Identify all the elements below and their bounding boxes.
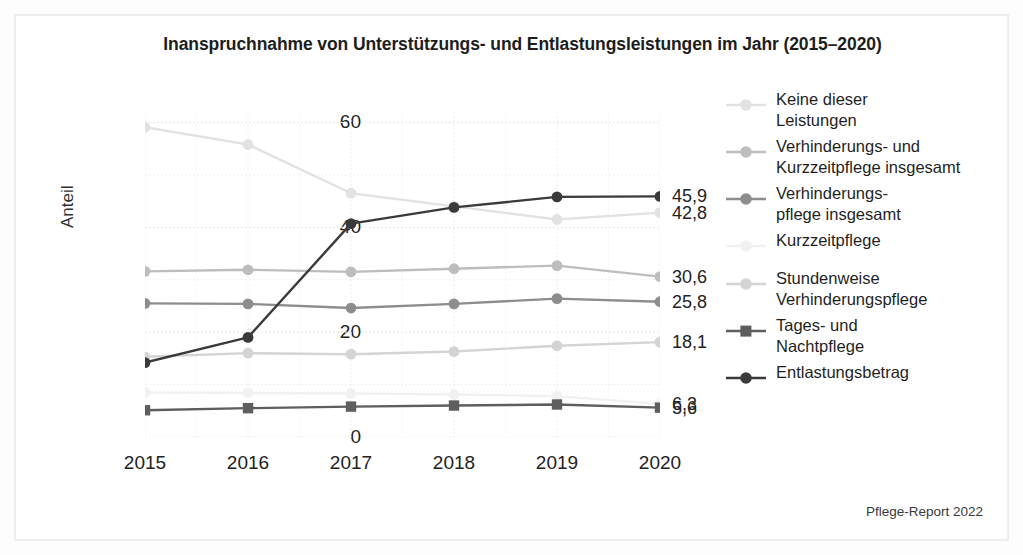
chart-figure: Inanspruchnahme von Unterstützungs- und … xyxy=(0,0,1023,555)
legend-marker-icon xyxy=(726,229,766,263)
series-end-label: 18,1 xyxy=(672,332,707,353)
legend-item-6[interactable]: Entlastungsbetrag xyxy=(726,361,1001,395)
series-end-label: 25,8 xyxy=(672,291,707,312)
page-title: Inanspruchnahme von Unterstützungs- und … xyxy=(0,34,1023,55)
gridlines xyxy=(145,112,660,437)
x-tick-label: 2020 xyxy=(615,452,705,474)
legend-item-4[interactable]: StundenweiseVerhinderungspflege xyxy=(726,267,1001,310)
legend-item-2[interactable]: Verhinderungs-pflege insgesamt xyxy=(726,182,1001,225)
series-end-label: 30,6 xyxy=(672,266,707,287)
x-tick-label: 2016 xyxy=(203,452,293,474)
legend-item-0[interactable]: Keine dieserLeistungen xyxy=(726,88,1001,131)
series-end-label: 45,9 xyxy=(672,186,707,207)
source-note: Pflege-Report 2022 xyxy=(866,504,983,519)
legend-marker-icon xyxy=(726,267,766,301)
plot-area xyxy=(145,112,660,437)
series-end-label: 5,6 xyxy=(672,397,697,418)
x-tick-label: 2019 xyxy=(512,452,602,474)
x-tick-label: 2018 xyxy=(409,452,499,474)
legend-label: Verhinderungs- undKurzzeitpflege insgesa… xyxy=(776,135,960,178)
legend-marker-icon xyxy=(726,314,766,348)
legend-label: Verhinderungs-pflege insgesamt xyxy=(776,182,901,225)
legend-marker-icon xyxy=(726,182,766,216)
y-axis-label: Anteil xyxy=(58,185,78,228)
legend-item-3[interactable]: Kurzzeitpflege xyxy=(726,229,1001,263)
legend-label: Kurzzeitpflege xyxy=(776,229,881,251)
x-tick-label: 2017 xyxy=(306,452,396,474)
legend-label: Entlastungsbetrag xyxy=(776,361,909,383)
legend-label: Tages- undNachtpflege xyxy=(776,314,864,357)
legend-label: StundenweiseVerhinderungspflege xyxy=(776,267,927,310)
chart-legend: Keine dieserLeistungenVerhinderungs- und… xyxy=(726,88,1001,399)
legend-marker-icon xyxy=(726,88,766,122)
legend-label: Keine dieserLeistungen xyxy=(776,88,868,131)
x-tick-label: 2015 xyxy=(100,452,190,474)
legend-item-1[interactable]: Verhinderungs- undKurzzeitpflege insgesa… xyxy=(726,135,1001,178)
legend-marker-icon xyxy=(726,361,766,395)
legend-item-5[interactable]: Tages- undNachtpflege xyxy=(726,314,1001,357)
legend-marker-icon xyxy=(726,135,766,169)
series-1 xyxy=(145,260,660,282)
